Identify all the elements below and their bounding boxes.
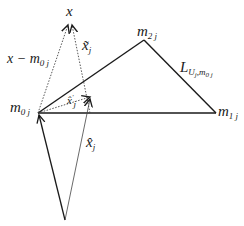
vector-origin-to-m0j <box>39 115 65 220</box>
vector-diagram <box>0 0 244 226</box>
label-m2j: m2 j <box>137 24 157 41</box>
vector-x-hat-j <box>65 99 90 220</box>
label-m0j: m0 j <box>10 100 30 117</box>
label-x-hat-prime-j: x̂'j <box>67 94 76 109</box>
label-L-Uj-m0j: LUj,m0 j <box>180 60 213 79</box>
label-x-hat-j: x̂j <box>86 135 95 152</box>
label-x-minus-m0j: x − m0 j <box>7 52 49 68</box>
vector-x-hat-prime-j <box>38 97 90 113</box>
label-x: x <box>66 4 73 19</box>
label-x-tilde-j: x̃j <box>82 38 91 55</box>
vector-x-minus-m0j <box>38 25 68 113</box>
label-m1j: m1 j <box>218 104 238 121</box>
